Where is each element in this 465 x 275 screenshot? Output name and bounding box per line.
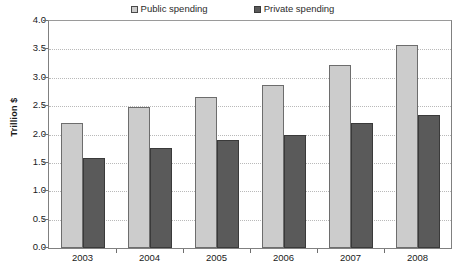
x-tick-label-2006: 2006 bbox=[249, 253, 319, 263]
x-tick-mark bbox=[183, 249, 184, 253]
bar-private-2006 bbox=[284, 135, 306, 249]
bar-private-2008 bbox=[418, 115, 440, 248]
bar-public-2005 bbox=[195, 97, 217, 248]
bar-private-2005 bbox=[217, 140, 239, 248]
legend-entry-public-spending: Public spending bbox=[131, 4, 208, 14]
x-tick-label-2003: 2003 bbox=[48, 253, 118, 263]
bar-public-2007 bbox=[329, 65, 351, 248]
y-tick-label: 2.0 bbox=[6, 129, 46, 138]
bar-chart: Public spending Private spending Trillio… bbox=[0, 0, 465, 275]
chart-legend: Public spending Private spending bbox=[0, 1, 465, 17]
bar-group-2007 bbox=[317, 21, 384, 248]
bar-group-2004 bbox=[116, 21, 183, 248]
y-tick-label: 3.5 bbox=[6, 43, 46, 52]
bar-group-2003 bbox=[49, 21, 116, 248]
bar-public-2006 bbox=[262, 85, 284, 248]
bar-public-2008 bbox=[396, 45, 418, 248]
y-tick-label: 1.5 bbox=[6, 157, 46, 166]
bars-layer bbox=[49, 21, 451, 248]
bar-private-2007 bbox=[351, 123, 373, 248]
y-axis-title: Trillion $ bbox=[9, 77, 19, 157]
x-tick-label-2005: 2005 bbox=[182, 253, 252, 263]
legend-swatch-private-icon bbox=[254, 6, 261, 13]
bar-group-2006 bbox=[250, 21, 317, 248]
bar-public-2004 bbox=[128, 107, 150, 248]
y-tick-label: 3.0 bbox=[6, 72, 46, 81]
y-tick-label: 0.5 bbox=[6, 214, 46, 223]
bar-private-2003 bbox=[83, 158, 105, 248]
y-tick-label: 1.0 bbox=[6, 185, 46, 194]
legend-entry-private-spending: Private spending bbox=[254, 4, 335, 14]
bar-group-2005 bbox=[183, 21, 250, 248]
x-tick-label-2008: 2008 bbox=[383, 253, 453, 263]
x-tick-mark bbox=[250, 249, 251, 253]
y-tick-label: 0.0 bbox=[6, 242, 46, 251]
bar-public-2003 bbox=[61, 123, 83, 248]
x-tick-label-2004: 2004 bbox=[115, 253, 185, 263]
bar-group-2008 bbox=[384, 21, 451, 248]
legend-label-private-spending: Private spending bbox=[264, 4, 335, 14]
legend-label-public-spending: Public spending bbox=[141, 4, 208, 14]
x-tick-label-2007: 2007 bbox=[316, 253, 386, 263]
bar-private-2004 bbox=[150, 148, 172, 248]
y-tick-label: 2.5 bbox=[6, 100, 46, 109]
x-tick-mark bbox=[384, 249, 385, 253]
y-tick-label: 4.0 bbox=[6, 15, 46, 24]
x-tick-mark bbox=[317, 249, 318, 253]
x-tick-mark bbox=[116, 249, 117, 253]
legend-swatch-public-icon bbox=[131, 6, 138, 13]
